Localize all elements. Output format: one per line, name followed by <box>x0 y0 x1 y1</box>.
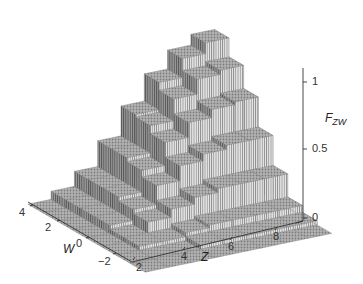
w-axis-label: W <box>63 243 74 255</box>
f-tick-1: 1 <box>312 76 318 87</box>
f-axis-label-subscript: ZW <box>332 117 346 127</box>
f-axis-label: FZW <box>325 112 346 127</box>
z-tick-4: 4 <box>181 251 187 262</box>
w-tick-neg2: −2 <box>98 256 111 267</box>
z-tick-8: 8 <box>273 231 279 242</box>
w-tick-4: 4 <box>19 207 25 218</box>
w-tick-0: 0 <box>76 238 82 249</box>
surface-plot <box>0 0 363 284</box>
surface-mesh <box>28 29 332 272</box>
z-tick-6: 6 <box>228 241 234 252</box>
f-tick-0: 0 <box>312 212 318 223</box>
f-tick-0-5: 0.5 <box>312 143 327 154</box>
z-tick-2: 2 <box>136 262 142 273</box>
w-tick-2: 2 <box>45 222 51 233</box>
z-axis-label: Z <box>201 251 208 263</box>
